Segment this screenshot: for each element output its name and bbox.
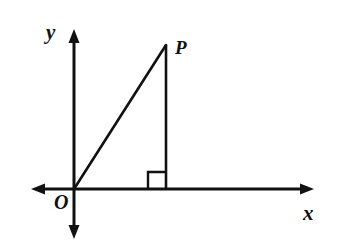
x-axis-label: x: [303, 203, 314, 224]
right-angle-marker-icon: [148, 172, 165, 189]
y-axis-down-arrow-icon: [69, 225, 80, 239]
y-axis-up-arrow-icon: [69, 29, 80, 43]
y-axis-label: y: [46, 22, 55, 43]
point-p-label: P: [175, 38, 187, 57]
x-axis-right-arrow-icon: [300, 184, 314, 195]
x-axis-left-arrow-icon: [31, 184, 45, 195]
triangle-hypotenuse: [74, 45, 166, 189]
origin-label: O: [54, 192, 68, 212]
geometry-figure: y x O P: [0, 0, 337, 244]
